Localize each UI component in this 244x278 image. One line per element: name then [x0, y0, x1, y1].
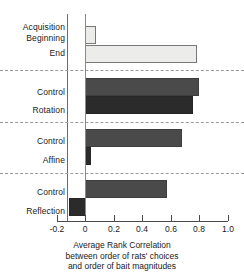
- x-axis-caption: Average Rank Correlation between order o…: [0, 240, 244, 272]
- bar-control-affine: [85, 129, 182, 147]
- category-label-control-reflection: Control: [0, 187, 65, 197]
- group-separator-3: [0, 173, 244, 174]
- x-axis-caption-line-3: and order of bait magnitudes: [0, 261, 244, 272]
- bar-end: [85, 45, 197, 63]
- plot-area: Acquisition Beginning End Control Rotati…: [0, 0, 244, 240]
- x-tick-mark-n02: [57, 215, 58, 221]
- x-axis-caption-line-1: Average Rank Correlation: [0, 240, 244, 251]
- bar-control-rotation: [85, 78, 199, 96]
- group-separator-1: [0, 70, 244, 71]
- x-tick-mark-06: [171, 215, 172, 221]
- x-tick-mark-02: [114, 215, 115, 221]
- category-axis-line: [67, 14, 68, 221]
- category-label-affine: Affine: [0, 155, 65, 165]
- x-tick-mark-10: [228, 215, 229, 221]
- category-label-rotation: Rotation: [0, 105, 65, 115]
- x-tick-mark-0: [85, 215, 86, 221]
- category-label-control-affine: Control: [0, 136, 65, 146]
- rank-correlation-bar-chart: Acquisition Beginning End Control Rotati…: [0, 0, 244, 278]
- bar-control-reflection: [85, 180, 167, 198]
- bar-reflection: [69, 198, 86, 216]
- bar-rotation: [85, 96, 193, 114]
- bar-beginning: [85, 26, 96, 44]
- category-label-reflection: Reflection: [0, 206, 65, 216]
- category-label-control-rotation: Control: [0, 87, 65, 97]
- zero-reference-line: [85, 14, 86, 221]
- x-tick-label-10: 1.0: [208, 224, 244, 234]
- x-tick-mark-04: [142, 215, 143, 221]
- category-label-beginning: Beginning: [0, 33, 65, 43]
- x-axis-caption-line-2: between order of rats' choices: [0, 251, 244, 262]
- x-axis-line: [57, 221, 228, 222]
- group-header-acquisition: Acquisition: [0, 22, 65, 32]
- x-tick-mark-08: [199, 215, 200, 221]
- category-label-end: End: [0, 48, 65, 58]
- group-separator-2: [0, 122, 244, 123]
